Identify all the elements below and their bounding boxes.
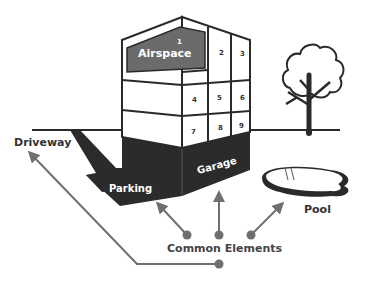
unit-2: 2	[219, 49, 224, 57]
unit-9: 9	[239, 122, 244, 130]
pool-icon	[262, 167, 348, 197]
pool-label: Pool	[304, 203, 331, 216]
unit-7: 7	[191, 128, 196, 136]
unit-4: 4	[192, 96, 197, 104]
unit-6: 6	[240, 94, 245, 102]
arrow-to-pool	[251, 206, 280, 235]
arrow-to-parking	[160, 206, 187, 235]
unit-3: 3	[240, 50, 245, 58]
common-elements-label: Common Elements	[167, 242, 283, 255]
airspace-label: Airspace	[138, 47, 192, 60]
tree-icon	[283, 45, 344, 136]
unit-8: 8	[218, 124, 223, 132]
unit-1: 1	[177, 38, 182, 46]
unit-5: 5	[217, 94, 222, 102]
condominium-diagram: 1 2 3 4 5 6 7 8 9 Airspace Parking Garag…	[0, 0, 367, 283]
driveway-label: Driveway	[14, 136, 71, 149]
parking-label: Parking	[109, 183, 152, 194]
